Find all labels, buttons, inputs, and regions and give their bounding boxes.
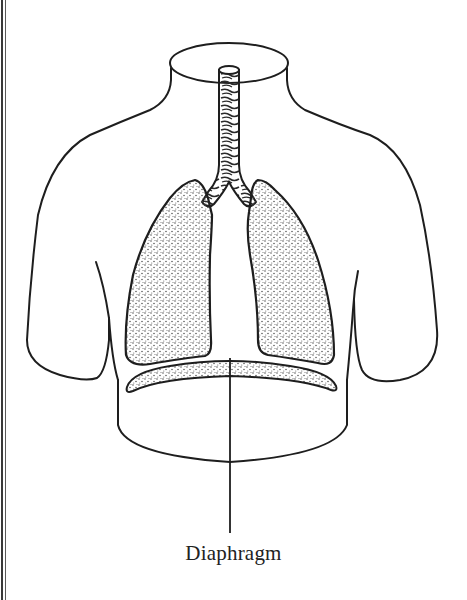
left-lung bbox=[126, 180, 212, 365]
trachea-tube bbox=[202, 70, 256, 207]
diagram-frame: Diaphragm bbox=[0, 0, 467, 600]
trachea bbox=[202, 66, 256, 207]
left-inner-arm-line bbox=[96, 262, 118, 380]
trachea-opening bbox=[219, 66, 239, 74]
torso-diagram bbox=[0, 0, 467, 600]
torso-outline bbox=[118, 380, 347, 462]
right-inner-arm-line bbox=[347, 271, 358, 380]
right-lung bbox=[248, 180, 334, 364]
diaphragm bbox=[127, 361, 337, 392]
diaphragm-label: Diaphragm bbox=[0, 541, 467, 566]
